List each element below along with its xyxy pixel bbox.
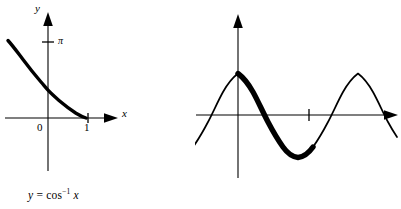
panel-arccos: y x π 0 1 y = cos−1 x (0, 0, 195, 209)
caption-arccos: y = cos−1 x (28, 190, 79, 202)
x-tick-label-one: 1 (84, 122, 90, 133)
cosine-plot-svg (195, 0, 401, 209)
origin-label: 0 (37, 122, 43, 133)
y-tick-label-pi: π (58, 36, 63, 46)
y-axis-arrow-icon (233, 14, 243, 28)
arccos-curve (8, 41, 86, 119)
x-axis-arrow-icon (104, 113, 118, 123)
figure-container: y x π 0 1 y = cos−1 x (0, 0, 401, 209)
panel-cosine: y 1 0 π y = cos x (195, 0, 401, 209)
x-axis-group (5, 113, 118, 123)
arccos-plot-svg (0, 0, 195, 209)
y-axis-arrow-icon (43, 12, 53, 26)
caption-argument: x (74, 189, 79, 201)
caption-lhs: y (28, 189, 33, 201)
y-axis-label: y (35, 3, 40, 14)
caption-equals: = (36, 189, 43, 201)
x-axis-label: x (122, 108, 127, 119)
x-axis-group (196, 110, 398, 120)
caption-function: cos (46, 189, 62, 201)
y-axis-group (233, 14, 243, 178)
caption-exponent: −1 (62, 187, 70, 196)
